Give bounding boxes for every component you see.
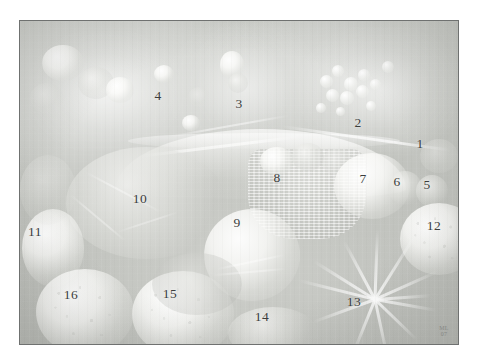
callout-12: 12 bbox=[427, 219, 441, 233]
callout-7: 7 bbox=[359, 172, 366, 186]
callout-3: 3 bbox=[235, 97, 242, 111]
callout-2: 2 bbox=[354, 116, 361, 130]
signature-line-2: 07 bbox=[436, 331, 452, 337]
plate-page: 4 3 2 1 8 7 6 5 10 9 11 12 13 14 15 16 M… bbox=[0, 0, 480, 362]
callout-11: 11 bbox=[28, 225, 42, 239]
painting-canvas: 4 3 2 1 8 7 6 5 10 9 11 12 13 14 15 16 M… bbox=[20, 21, 458, 344]
callout-14: 14 bbox=[255, 310, 269, 324]
callout-16: 16 bbox=[64, 288, 78, 302]
callout-8: 8 bbox=[273, 171, 280, 185]
callout-10: 10 bbox=[133, 192, 147, 206]
callout-4: 4 bbox=[154, 89, 161, 103]
callout-6: 6 bbox=[393, 175, 400, 189]
callout-9: 9 bbox=[233, 216, 240, 230]
painting-frame: 4 3 2 1 8 7 6 5 10 9 11 12 13 14 15 16 M… bbox=[19, 20, 459, 345]
callout-5: 5 bbox=[423, 178, 430, 192]
signature-mark: ML 07 bbox=[436, 325, 452, 339]
callout-13: 13 bbox=[347, 295, 361, 309]
callout-15: 15 bbox=[163, 287, 177, 301]
painting-vignette bbox=[20, 21, 458, 344]
callout-1: 1 bbox=[416, 137, 423, 151]
